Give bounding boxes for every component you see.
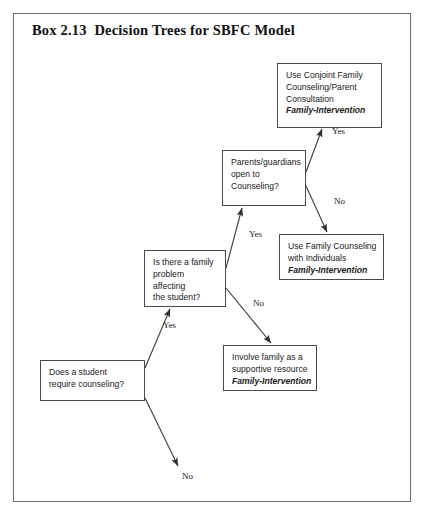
node-text-line: require counseling?: [49, 379, 137, 391]
edge-label-family-problem-yes-to-parents: Yes: [249, 229, 262, 239]
node-family-counseling-individuals: Use Family Counselingwith IndividualsFam…: [279, 234, 384, 280]
node-text-line: the student?: [153, 292, 218, 304]
node-text-line: Involve family as a: [232, 352, 309, 364]
node-involve-family-supportive: Involve family as asupportive resourceFa…: [223, 345, 317, 391]
node-emphasis-label: Family-Intervention: [286, 105, 374, 117]
node-does-student-require-counseling: Does a studentrequire counseling?: [40, 360, 145, 401]
edge-label-family-problem-no-to-involve: No: [253, 298, 264, 308]
edge-label-student-no-terminal: No: [182, 471, 193, 481]
node-text-line: Does a student: [49, 367, 137, 379]
node-text-line: Counseling?: [231, 181, 298, 193]
node-text-line: open to: [231, 169, 298, 181]
node-text-line: Use Family Counseling: [288, 241, 376, 253]
node-text-line: Consultation: [286, 94, 374, 106]
edge-student-no-terminal: [145, 398, 178, 466]
edge-label-student-yes-to-family-problem: Yes: [163, 320, 176, 330]
node-text-line: affecting: [153, 281, 218, 293]
page-root: Box 2.13 Decision Trees for SBFC Model U…: [0, 0, 429, 518]
edge-student-yes-to-family-problem: [145, 309, 170, 368]
node-emphasis-label: Family-Intervention: [232, 376, 309, 388]
edge-label-parents-no-to-individuals: No: [334, 196, 345, 206]
node-conjoint-family-counseling: Use Conjoint FamilyCounseling/ParentCons…: [277, 63, 382, 128]
node-parents-open-to-counseling: Parents/guardiansopen toCounseling?: [222, 150, 306, 206]
node-text-line: Counseling/Parent: [286, 82, 374, 94]
edge-parents-no-to-individuals: [306, 186, 327, 232]
node-text-line: problem: [153, 269, 218, 281]
node-text-line: Parents/guardians: [231, 157, 298, 169]
node-family-problem-affecting-student: Is there a familyproblemaffectingthe stu…: [144, 250, 226, 307]
node-text-line: Is there a family: [153, 257, 218, 269]
edge-family-problem-yes-to-parents: [226, 208, 242, 268]
edge-label-parents-yes-to-conjoint: Yes: [332, 126, 345, 136]
node-text-line: with Individuals: [288, 253, 376, 265]
edge-family-problem-no-to-involve: [226, 288, 271, 343]
node-text-line: Use Conjoint Family: [286, 70, 374, 82]
edge-parents-yes-to-conjoint: [306, 129, 322, 172]
node-emphasis-label: Family-Intervention: [288, 265, 376, 277]
node-text-line: supportive resource: [232, 364, 309, 376]
